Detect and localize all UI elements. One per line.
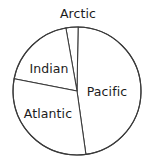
pie-chart-figure: Arctic Pacific Indian Atlantic — [0, 0, 152, 166]
pie-slice-pacific — [77, 27, 141, 154]
pie-chart-svg — [0, 0, 152, 166]
pie-slice-atlantic — [13, 79, 86, 155]
pie-slice-group — [13, 27, 141, 155]
